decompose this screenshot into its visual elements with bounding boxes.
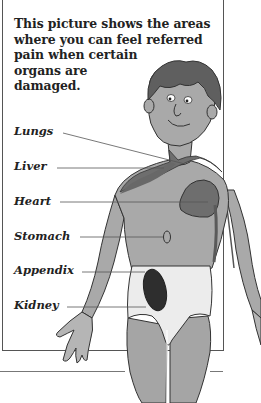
- divider-line: [0, 371, 125, 372]
- torso: [115, 142, 229, 270]
- label-liver: Liver: [14, 159, 47, 173]
- label-stomach: Stomach: [14, 229, 70, 243]
- divider-line: [210, 371, 223, 372]
- head: [144, 61, 221, 146]
- right-arm: [56, 195, 124, 363]
- label-appendix: Appendix: [14, 263, 74, 277]
- label-lungs: Lungs: [14, 124, 53, 138]
- label-kidney: Kidney: [14, 298, 59, 312]
- label-heart: Heart: [14, 194, 51, 208]
- left-arm: [224, 190, 261, 345]
